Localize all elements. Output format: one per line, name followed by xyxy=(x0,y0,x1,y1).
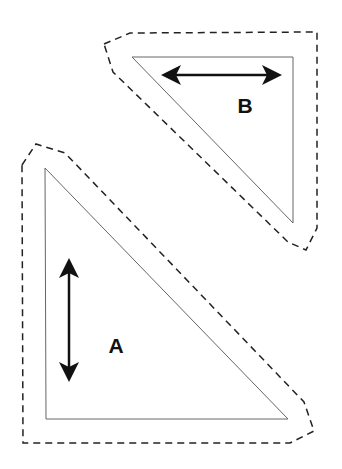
shape-b-label: B xyxy=(237,94,252,117)
shape-b: B xyxy=(104,32,317,250)
shape-a-label: A xyxy=(108,334,123,357)
diagram-canvas: B A xyxy=(0,0,342,469)
shape-b-triangle xyxy=(132,57,293,223)
shape-b-dashed-boundary xyxy=(104,32,317,250)
shape-a: A xyxy=(22,144,314,443)
